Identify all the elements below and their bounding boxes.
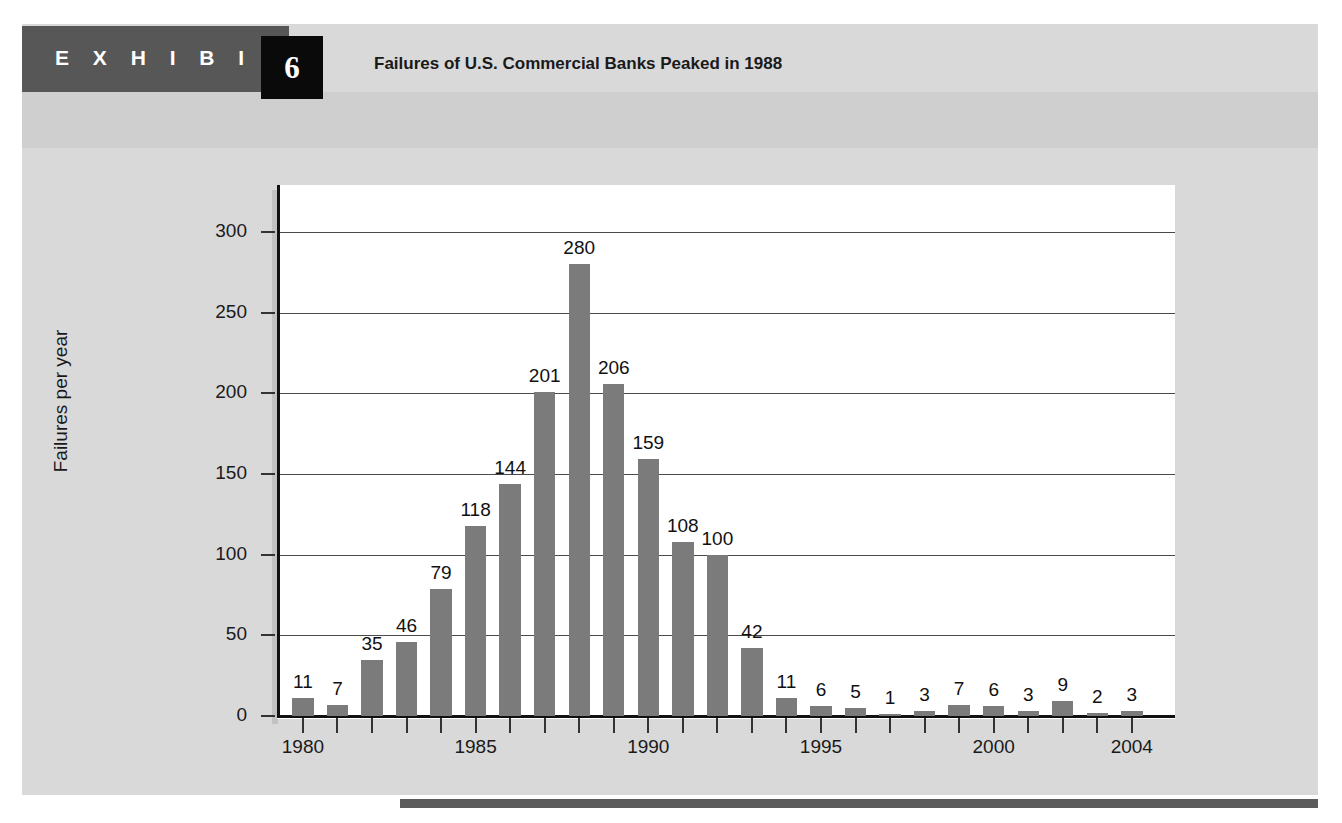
bar-label-1989: 206 bbox=[584, 357, 644, 379]
bar-1984 bbox=[430, 589, 451, 716]
exhibit-number: 6 bbox=[261, 36, 323, 99]
header-sub-band bbox=[22, 92, 1318, 148]
x-tick-1983 bbox=[406, 718, 408, 733]
bar-label-1983: 46 bbox=[377, 615, 437, 637]
x-tick-1980 bbox=[302, 718, 304, 733]
bar-1999 bbox=[948, 705, 969, 716]
x-tick-1998 bbox=[924, 718, 926, 733]
bar-1998 bbox=[914, 711, 935, 716]
bar-1981 bbox=[327, 705, 348, 716]
y-tick-label: 250 bbox=[183, 301, 247, 323]
y-tick-label: 200 bbox=[183, 381, 247, 403]
bottom-rule bbox=[400, 799, 1318, 808]
y-tick-label: 300 bbox=[183, 220, 247, 242]
x-tick-2000 bbox=[993, 718, 995, 733]
bar-1980 bbox=[292, 698, 313, 716]
y-tick-mark bbox=[261, 715, 275, 717]
bar-label-1985: 118 bbox=[446, 499, 506, 521]
x-tick-label-2004: 2004 bbox=[1092, 736, 1172, 758]
y-tick-mark bbox=[261, 312, 275, 314]
page-margin-left bbox=[0, 0, 22, 823]
x-tick-1995 bbox=[820, 718, 822, 733]
bar-1988 bbox=[569, 264, 590, 716]
x-tick-label-2000: 2000 bbox=[954, 736, 1034, 758]
bar-2004 bbox=[1121, 711, 1142, 716]
page-margin-top bbox=[0, 0, 1342, 24]
x-tick-label-1990: 1990 bbox=[608, 736, 688, 758]
x-tick-1982 bbox=[371, 718, 373, 733]
x-tick-2004 bbox=[1131, 718, 1133, 733]
y-tick-label: 100 bbox=[183, 543, 247, 565]
bar-1985 bbox=[465, 526, 486, 716]
x-tick-1994 bbox=[785, 718, 787, 733]
y-tick-label: 0 bbox=[183, 704, 247, 726]
y-tick-mark bbox=[261, 231, 275, 233]
bar-1990 bbox=[638, 459, 659, 716]
x-tick-1999 bbox=[958, 718, 960, 733]
x-tick-1991 bbox=[682, 718, 684, 733]
bar-1991 bbox=[672, 542, 693, 716]
x-tick-2001 bbox=[1027, 718, 1029, 733]
bar-1997 bbox=[879, 714, 900, 716]
x-tick-1985 bbox=[475, 718, 477, 733]
y-tick-mark bbox=[261, 392, 275, 394]
bar-label-1990: 159 bbox=[618, 432, 678, 454]
x-tick-1984 bbox=[440, 718, 442, 733]
bar-label-2004: 3 bbox=[1102, 684, 1162, 706]
x-tick-1986 bbox=[509, 718, 511, 733]
bar-label-1993: 42 bbox=[722, 621, 782, 643]
chart-y-axis-title: Failures per year bbox=[50, 271, 72, 531]
x-tick-1989 bbox=[613, 718, 615, 733]
y-tick-mark bbox=[261, 473, 275, 475]
y-tick-mark bbox=[261, 634, 275, 636]
bar-label-1986: 144 bbox=[480, 457, 540, 479]
y-tick-label: 50 bbox=[183, 623, 247, 645]
bar-2003 bbox=[1087, 713, 1108, 716]
bar-2001 bbox=[1018, 711, 1039, 716]
bar-1987 bbox=[534, 392, 555, 716]
x-tick-1992 bbox=[716, 718, 718, 733]
x-tick-1987 bbox=[544, 718, 546, 733]
exhibit-page: E X H I B I T 6 Failures of U.S. Commerc… bbox=[0, 0, 1342, 823]
bar-label-1984: 79 bbox=[411, 562, 471, 584]
x-tick-1996 bbox=[855, 718, 857, 733]
bar-label-1992: 100 bbox=[687, 528, 747, 550]
y-tick-label: 150 bbox=[183, 462, 247, 484]
x-tick-label-1980: 1980 bbox=[263, 736, 343, 758]
x-tick-label-1995: 1995 bbox=[781, 736, 861, 758]
page-title: Failures of U.S. Commercial Banks Peaked… bbox=[374, 54, 782, 74]
bar-label-1987: 201 bbox=[515, 365, 575, 387]
x-tick-1990 bbox=[647, 718, 649, 733]
x-tick-2003 bbox=[1096, 718, 1098, 733]
bar-label-1981: 7 bbox=[307, 678, 367, 700]
x-tick-1981 bbox=[336, 718, 338, 733]
page-margin-right bbox=[1318, 0, 1342, 823]
bar-label-1988: 280 bbox=[549, 237, 609, 259]
x-tick-label-1985: 1985 bbox=[436, 736, 516, 758]
x-tick-1988 bbox=[578, 718, 580, 733]
y-tick-mark bbox=[261, 554, 275, 556]
x-tick-1997 bbox=[889, 718, 891, 733]
bar-1995 bbox=[810, 706, 831, 716]
exhibit-label: E X H I B I T bbox=[55, 46, 290, 70]
bar-2000 bbox=[983, 706, 1004, 716]
x-tick-2002 bbox=[1062, 718, 1064, 733]
x-tick-1993 bbox=[751, 718, 753, 733]
